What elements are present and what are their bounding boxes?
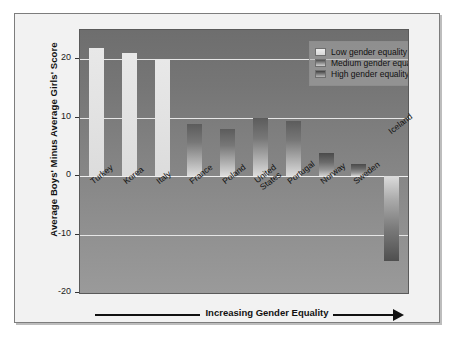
y-axis-title: Average Boys' Minus Average Girls' Score [48,40,59,240]
gridline--20 [80,293,408,294]
gridline--10 [80,235,408,236]
legend-label-low: Low gender equality [331,47,407,57]
legend-item-low: Low gender equality [315,47,409,57]
y-tick-label-20: 20 [31,52,71,62]
chart-figure: Average Boys' Minus Average Girls' Score… [0,0,464,345]
bar-iceland [384,176,399,261]
y-tick-label-10: 10 [31,111,71,121]
x-axis-caption: Increasing Gender Equality [200,307,334,318]
legend-label-high: High gender equality [331,69,409,79]
legend-label-medium: Medium gender equality [331,58,409,68]
plot-area: Low gender equality Medium gender equali… [79,29,409,294]
chart-legend: Low gender equality Medium gender equali… [309,41,409,86]
y-tick-label--10: -10 [31,228,71,238]
legend-item-high: High gender equality [315,69,409,79]
legend-item-medium: Medium gender equality [315,58,409,68]
y-tick-label-0: 0 [31,169,71,179]
bar-italy [155,59,170,176]
arrow-line-right [333,314,395,316]
bar-korea [122,53,137,176]
arrow-head-icon [393,309,404,321]
legend-swatch-high-icon [315,70,326,78]
arrow-line-left [95,314,200,316]
chart-card: Average Boys' Minus Average Girls' Score… [14,13,440,323]
y-tick-label--20: -20 [31,286,71,296]
bar-turkey [89,48,104,177]
legend-swatch-low-icon [315,48,326,56]
x-axis-caption-band: Increasing Gender Equality [79,306,413,324]
legend-swatch-medium-icon [315,59,326,67]
